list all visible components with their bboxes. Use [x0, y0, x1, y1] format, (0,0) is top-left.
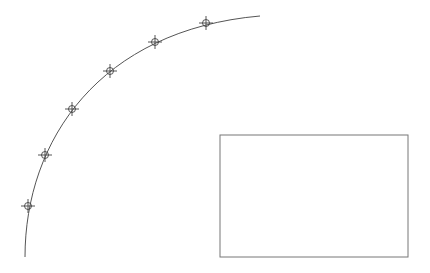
crosshair-marker-icon	[148, 35, 162, 49]
rectangle-shape	[220, 135, 408, 257]
point-markers	[21, 16, 213, 213]
crosshair-marker-icon	[38, 148, 52, 162]
arc-curve	[25, 16, 260, 257]
crosshair-marker-icon	[199, 16, 213, 30]
crosshair-marker-icon	[21, 199, 35, 213]
drawing-canvas	[0, 0, 430, 273]
